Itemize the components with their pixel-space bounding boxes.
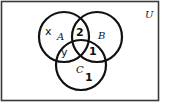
- universal-set-label: U: [145, 9, 154, 20]
- set-c-label: C: [76, 64, 84, 75]
- region-ac-value: y: [61, 46, 68, 59]
- region-a-only-value: x: [45, 25, 52, 38]
- universal-set-rectangle: [2, 2, 159, 101]
- venn-diagram: U A B C x 2 y 1 1: [0, 0, 170, 109]
- region-ab-value: 2: [76, 26, 84, 39]
- set-a-label: A: [56, 31, 64, 42]
- region-c-only-value: 1: [85, 71, 93, 84]
- set-b-label: B: [97, 30, 105, 41]
- region-bc-value: 1: [89, 45, 97, 58]
